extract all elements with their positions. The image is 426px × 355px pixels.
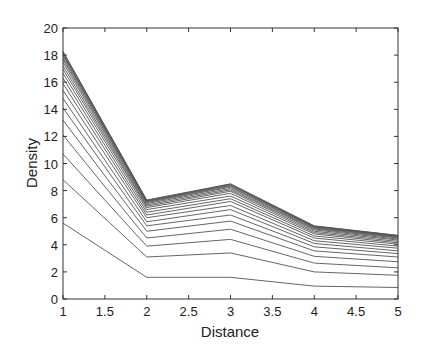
y-tick-label: 20 [44,21,58,36]
y-axis-label: Density [23,137,40,188]
series-line [63,78,398,244]
x-tick-label: 5 [394,304,401,319]
x-axis-label: Distance [201,323,259,340]
y-tick-label: 2 [51,265,58,280]
x-tick-label: 1 [59,304,66,319]
y-tick-label: 10 [44,157,58,172]
series-line [63,180,398,276]
y-axis-ticks: 02468101214161820 [44,21,398,307]
series-line [63,84,398,247]
y-tick-label: 0 [51,292,58,307]
x-tick-label: 3.5 [263,304,281,319]
series-line [63,90,398,248]
y-tick-label: 4 [51,238,58,253]
x-tick-label: 4.5 [347,304,365,319]
series-line [63,98,398,250]
x-tick-label: 3 [227,304,234,319]
y-tick-label: 18 [44,48,58,63]
y-tick-label: 8 [51,184,58,199]
data-lines [63,51,398,287]
series-line [63,60,398,238]
x-tick-label: 4 [311,304,318,319]
y-tick-label: 12 [44,129,58,144]
y-tick-label: 14 [44,102,58,117]
x-tick-label: 2.5 [180,304,198,319]
line-chart: 11.522.533.544.55 02468101214161820 Dist… [0,0,426,355]
x-axis-ticks: 11.522.533.544.55 [59,28,401,319]
x-tick-label: 2 [143,304,150,319]
x-tick-label: 1.5 [96,304,114,319]
y-tick-label: 16 [44,75,58,90]
y-tick-label: 6 [51,211,58,226]
series-line [63,154,398,268]
chart-canvas: 11.522.533.544.55 02468101214161820 Dist… [0,0,426,355]
